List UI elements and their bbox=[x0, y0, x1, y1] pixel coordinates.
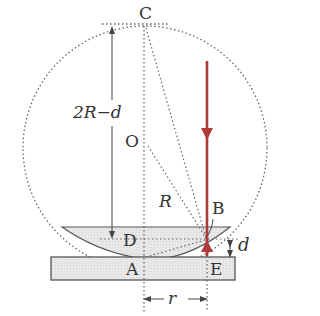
label-c: C bbox=[139, 5, 152, 22]
label-e: E bbox=[210, 261, 222, 278]
ray-down-arrow-icon bbox=[201, 128, 213, 140]
label-r-radius: R bbox=[159, 193, 172, 210]
label-a: A bbox=[126, 261, 138, 278]
label-o: O bbox=[125, 133, 139, 150]
label-r-distance: r bbox=[168, 290, 176, 307]
line-c-b bbox=[146, 28, 206, 238]
label-2r-minus-d: 2R−d bbox=[73, 104, 122, 121]
label-d-point: D bbox=[123, 232, 137, 249]
radius-line-o-b bbox=[148, 146, 206, 238]
label-b: B bbox=[212, 200, 225, 217]
label-d-gap: d bbox=[238, 236, 250, 254]
